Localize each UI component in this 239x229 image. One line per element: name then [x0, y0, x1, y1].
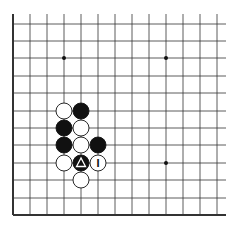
black-stone — [73, 103, 89, 119]
black-stone — [56, 120, 72, 136]
star-point — [164, 56, 168, 60]
white-stone — [73, 120, 89, 136]
go-board: I — [0, 0, 239, 229]
white-stone — [73, 137, 89, 153]
move-label: I — [96, 157, 99, 169]
black-stone — [90, 137, 106, 153]
white-stone — [73, 172, 89, 188]
white-stone — [56, 103, 72, 119]
star-point — [164, 161, 168, 165]
black-stone — [56, 137, 72, 153]
star-point — [62, 56, 66, 60]
white-stone — [56, 155, 72, 171]
